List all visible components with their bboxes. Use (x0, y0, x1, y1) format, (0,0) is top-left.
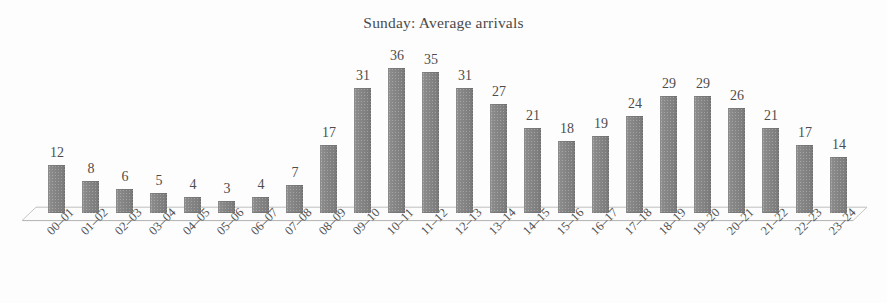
bar-group: 27 (482, 38, 516, 213)
bar-group: 8 (74, 38, 108, 213)
bar[interactable] (694, 96, 711, 213)
bar-wrapper: 27 (482, 38, 516, 213)
bar-texture (762, 128, 779, 213)
bar-value-label: 8 (74, 161, 108, 177)
bar[interactable] (48, 165, 65, 213)
bar-texture (592, 136, 609, 213)
bar-group: 6 (108, 38, 142, 213)
bar-value-label: 4 (176, 177, 210, 193)
bar-group: 17 (312, 38, 346, 213)
bar-wrapper: 35 (414, 38, 448, 213)
bar-value-label: 29 (686, 76, 720, 92)
bar-value-label: 5 (142, 173, 176, 189)
bar-texture (796, 145, 813, 213)
bar[interactable] (558, 141, 575, 214)
bar-value-label: 21 (516, 108, 550, 124)
bar-value-label: 31 (346, 68, 380, 84)
bar-texture (558, 141, 575, 214)
bar[interactable] (422, 72, 439, 213)
bar[interactable] (728, 108, 745, 213)
bar-value-label: 17 (312, 125, 346, 141)
bar-group: 24 (618, 38, 652, 213)
bar-wrapper: 3 (210, 38, 244, 213)
bar-value-label: 17 (788, 125, 822, 141)
bar-group: 26 (720, 38, 754, 213)
bar-texture (524, 128, 541, 213)
bar-texture (490, 104, 507, 213)
bar-group: 12 (40, 38, 74, 213)
bar-group: 36 (380, 38, 414, 213)
bar-wrapper: 8 (74, 38, 108, 213)
bar-value-label: 24 (618, 96, 652, 112)
bar-value-label: 26 (720, 88, 754, 104)
bar-wrapper: 18 (550, 38, 584, 213)
bar-wrapper: 6 (108, 38, 142, 213)
bar-wrapper: 21 (754, 38, 788, 213)
bar-chart-figure: Sunday: Average arrivals 128654347173136… (0, 0, 887, 303)
bar-group: 19 (584, 38, 618, 213)
bar-value-label: 31 (448, 68, 482, 84)
bar-wrapper: 19 (584, 38, 618, 213)
bar-group: 18 (550, 38, 584, 213)
bar-wrapper: 12 (40, 38, 74, 213)
bar-group: 35 (414, 38, 448, 213)
bar-value-label: 36 (380, 48, 414, 64)
plot-area: 1286543471731363531272118192429292621171… (0, 0, 887, 303)
bar[interactable] (796, 145, 813, 213)
bar[interactable] (354, 88, 371, 213)
bar-wrapper: 4 (176, 38, 210, 213)
bar[interactable] (762, 128, 779, 213)
bar-group: 5 (142, 38, 176, 213)
bar-texture (456, 88, 473, 213)
bar-wrapper: 31 (346, 38, 380, 213)
bar-wrapper: 36 (380, 38, 414, 213)
bar-texture (320, 145, 337, 213)
bar-value-label: 35 (414, 52, 448, 68)
bar-value-label: 6 (108, 169, 142, 185)
bar-texture (422, 72, 439, 213)
bar-value-label: 19 (584, 116, 618, 132)
bar-group: 17 (788, 38, 822, 213)
bar-wrapper: 24 (618, 38, 652, 213)
bar-value-label: 14 (822, 137, 856, 153)
bar-wrapper: 26 (720, 38, 754, 213)
bar-wrapper: 5 (142, 38, 176, 213)
bar-wrapper: 29 (686, 38, 720, 213)
bar-wrapper: 29 (652, 38, 686, 213)
bar-value-label: 29 (652, 76, 686, 92)
bar-wrapper: 4 (244, 38, 278, 213)
bar-group: 4 (176, 38, 210, 213)
bar-texture (626, 116, 643, 213)
bar-group: 21 (754, 38, 788, 213)
bar-texture (694, 96, 711, 213)
bar-texture (388, 68, 405, 213)
bar-wrapper: 14 (822, 38, 856, 213)
bar[interactable] (456, 88, 473, 213)
bar-group: 21 (516, 38, 550, 213)
bar-value-label: 18 (550, 121, 584, 137)
bar[interactable] (320, 145, 337, 213)
bar[interactable] (388, 68, 405, 213)
bar-value-label: 3 (210, 181, 244, 197)
bar-wrapper: 17 (788, 38, 822, 213)
bar[interactable] (626, 116, 643, 213)
bar-group: 29 (652, 38, 686, 213)
bar[interactable] (490, 104, 507, 213)
bar-texture (354, 88, 371, 213)
bar[interactable] (830, 157, 847, 213)
bar-group: 29 (686, 38, 720, 213)
bar-group: 31 (448, 38, 482, 213)
bar-value-label: 21 (754, 108, 788, 124)
bar-wrapper: 31 (448, 38, 482, 213)
bar-group: 4 (244, 38, 278, 213)
bar-wrapper: 17 (312, 38, 346, 213)
bar[interactable] (660, 96, 677, 213)
bar-wrapper: 7 (278, 38, 312, 213)
bar-group: 31 (346, 38, 380, 213)
bar-texture (48, 165, 65, 213)
bar-value-label: 7 (278, 165, 312, 181)
bar-wrapper: 21 (516, 38, 550, 213)
bar-value-label: 27 (482, 84, 516, 100)
bar[interactable] (524, 128, 541, 213)
bar[interactable] (592, 136, 609, 213)
